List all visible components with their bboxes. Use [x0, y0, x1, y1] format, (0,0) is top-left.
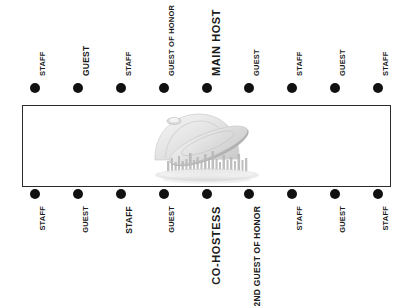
banquet-table	[22, 105, 391, 187]
seat-dot-icon[interactable]	[159, 83, 169, 93]
seat-label: GUEST	[339, 49, 347, 76]
seat-label: STAFF	[382, 206, 390, 231]
seat-dot-icon[interactable]	[287, 189, 297, 199]
seat-dot-icon[interactable]	[244, 83, 254, 93]
seat-dot-icon[interactable]	[373, 83, 383, 93]
seat-label: GUEST	[339, 206, 347, 233]
seat-label: STAFF	[39, 51, 47, 76]
seat-label: GUEST	[168, 206, 176, 233]
seat-dot-icon[interactable]	[202, 83, 212, 93]
seat-label: GUEST OF HONOR	[168, 5, 176, 76]
seat-dot-icon[interactable]	[373, 189, 383, 199]
seat-dot-icon[interactable]	[73, 83, 83, 93]
seat-dot-icon[interactable]	[116, 83, 126, 93]
seat-label: GUEST	[253, 49, 261, 76]
seat-dot-icon[interactable]	[116, 189, 126, 199]
seat-label: GUEST	[82, 46, 91, 76]
seat-label: STAFF	[296, 51, 304, 76]
seat-label: CO-HOSTESS	[211, 206, 222, 285]
seat-label: GUEST	[82, 206, 90, 233]
seat-label: STAFF	[382, 51, 390, 76]
seat-dot-icon[interactable]	[244, 189, 254, 199]
seat-dot-icon[interactable]	[73, 189, 83, 199]
seat-label: MAIN HOST	[211, 9, 222, 76]
seat-dot-icon[interactable]	[30, 83, 40, 93]
seat-dot-icon[interactable]	[202, 189, 212, 199]
seat-dot-icon[interactable]	[330, 189, 340, 199]
seat-dot-icon[interactable]	[159, 189, 169, 199]
seat-label: STAFF	[296, 206, 304, 231]
seat-dot-icon[interactable]	[287, 83, 297, 93]
seat-label: STAFF	[125, 51, 133, 76]
seat-dot-icon[interactable]	[330, 83, 340, 93]
seat-label: STAFF	[125, 206, 134, 234]
seat-label: STAFF	[39, 206, 47, 231]
seat-dot-icon[interactable]	[30, 189, 40, 199]
seat-label: 2ND GUEST OF HONOR	[253, 206, 262, 306]
